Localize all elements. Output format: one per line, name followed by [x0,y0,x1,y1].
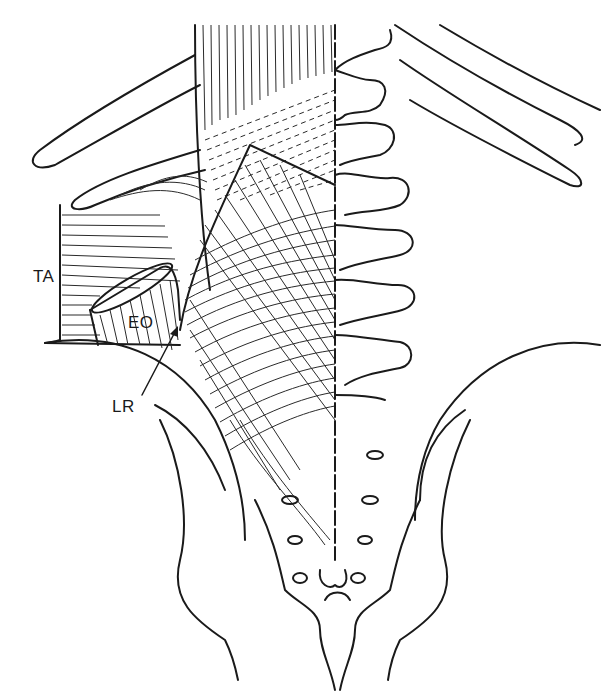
pelvis [45,340,600,680]
right-ribs [395,25,600,186]
oblique-fibers [180,145,335,545]
external-oblique [87,256,180,350]
sacrum [255,451,420,690]
anatomy-figure: TA EO LR [0,0,611,699]
label-lr: LR [112,397,135,417]
label-ta: TA [33,267,54,287]
dashed-aponeurosis [205,90,335,200]
label-eo: EO [128,313,154,333]
vertical-muscle-fibers [195,25,332,290]
left-ribs [33,55,205,209]
lumbar-vertebrae [335,30,414,400]
anatomy-drawing [0,0,611,699]
